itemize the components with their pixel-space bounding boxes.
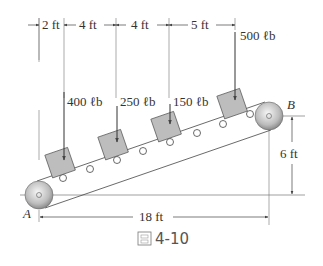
dim-18ft: 18 ft bbox=[139, 209, 164, 224]
roller-icon bbox=[220, 121, 227, 128]
roller-icon bbox=[167, 139, 174, 146]
pulley-b bbox=[255, 102, 283, 130]
crate-150 bbox=[151, 111, 182, 142]
conveyor-diagram: 2 ft 4 ft 4 ft 5 ft 400 ℓb 250 ℓb 150 ℓb… bbox=[0, 0, 323, 266]
point-a-label: A bbox=[22, 206, 31, 221]
load-400: 400 ℓb bbox=[67, 94, 102, 109]
dim-4ft-a: 4 ft bbox=[79, 17, 97, 32]
point-b-label: B bbox=[287, 97, 295, 112]
dim-6ft: 6 ft bbox=[280, 146, 298, 161]
figure-caption: 4-10 bbox=[138, 230, 189, 248]
load-250: 250 ℓb bbox=[120, 94, 155, 109]
roller-icon bbox=[194, 130, 201, 137]
roller-icon bbox=[140, 148, 147, 155]
roller-icon bbox=[247, 111, 254, 118]
dim-2ft: 2 ft bbox=[42, 17, 60, 32]
dim-4ft-b: 4 ft bbox=[131, 17, 149, 32]
crate-250 bbox=[98, 129, 129, 160]
load-150: 150 ℓb bbox=[173, 94, 208, 109]
roller-icon bbox=[114, 157, 121, 164]
load-500: 500 ℓb bbox=[240, 28, 275, 43]
crate-400 bbox=[45, 147, 76, 178]
pulley-a bbox=[25, 181, 53, 209]
pulley-icon bbox=[25, 181, 53, 209]
caption-number: 4-10 bbox=[155, 230, 189, 248]
dim-5ft: 5 ft bbox=[191, 17, 209, 32]
roller-icon bbox=[87, 166, 94, 173]
pulley-icon bbox=[255, 102, 283, 130]
crate-500 bbox=[217, 88, 248, 119]
